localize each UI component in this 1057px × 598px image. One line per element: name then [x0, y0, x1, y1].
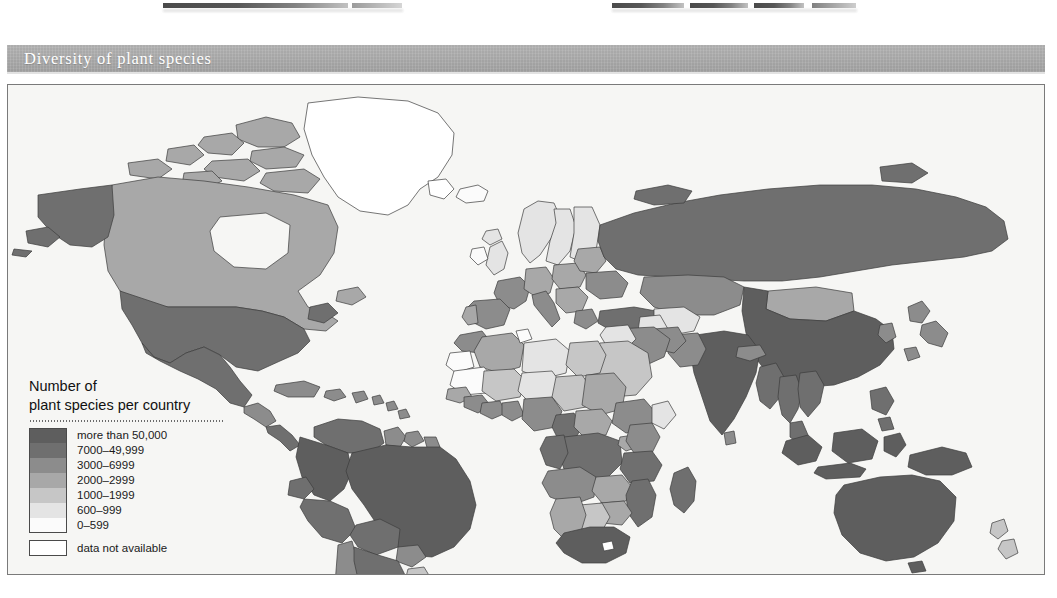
legend-label: 1000–1999: [77, 488, 135, 503]
legend-label: 600–999: [77, 503, 122, 518]
text-fragment: [690, 3, 748, 8]
fragment-shadow: [612, 9, 857, 12]
fragment-shadow: [163, 9, 403, 12]
legend-label: 3000–6999: [77, 458, 135, 473]
legend-divider: [29, 420, 225, 422]
legend-row: 0–599: [29, 518, 239, 533]
legend-swatch: [29, 428, 67, 443]
legend-swatch-no-data: [29, 540, 67, 556]
page-title: Diversity of plant species: [24, 49, 212, 69]
text-fragment: [352, 3, 402, 8]
legend-label: more than 50,000: [77, 428, 167, 443]
legend-title-line-2: plant species per country: [29, 396, 239, 415]
world-map-frame: .c { stroke:#3c3c3c; stroke-width:.7; st…: [7, 84, 1045, 575]
section-title-banner: Diversity of plant species: [7, 45, 1045, 72]
legend-swatch: [29, 443, 67, 458]
legend-swatch: [29, 473, 67, 488]
text-fragment: [612, 3, 684, 8]
legend-label: 0–599: [77, 518, 109, 533]
legend-row: 2000–2999: [29, 473, 239, 488]
banner-underline: [7, 72, 1045, 74]
legend-swatch: [29, 488, 67, 503]
legend-row: 1000–1999: [29, 488, 239, 503]
text-fragment: [812, 3, 856, 8]
text-fragment: [754, 3, 804, 8]
map-legend: Number of plant species per country more…: [29, 377, 239, 556]
legend-title: Number of plant species per country: [29, 377, 239, 415]
legend-row: more than 50,000: [29, 428, 239, 443]
legend-row: 7000–49,999: [29, 443, 239, 458]
top-cut-off-fragments: [0, 0, 1057, 16]
legend-row: 3000–6999: [29, 458, 239, 473]
legend-rows: more than 50,000 7000–49,999 3000–6999 2…: [29, 428, 239, 556]
legend-swatch: [29, 503, 67, 518]
legend-label-no-data: data not available: [77, 540, 167, 556]
legend-label: 2000–2999: [77, 473, 135, 488]
legend-swatch: [29, 458, 67, 473]
text-fragment: [163, 3, 348, 8]
legend-title-line-1: Number of: [29, 377, 239, 396]
legend-swatch: [29, 518, 67, 533]
legend-row-no-data: data not available: [29, 540, 239, 556]
legend-row: 600–999: [29, 503, 239, 518]
legend-label: 7000–49,999: [77, 443, 144, 458]
